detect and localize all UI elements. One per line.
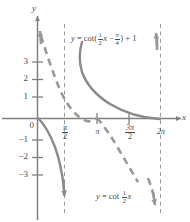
x-axis-label: x — [182, 113, 186, 122]
solid-curve-equation-label: y = cot(12x −π4) + 1 — [71, 32, 136, 46]
x-tick-3pi-over-2-denominator: 2 — [125, 133, 135, 141]
x-tick-pi-text: π — [95, 127, 99, 136]
curve-solid-left-branch-arrow — [63, 182, 64, 196]
dashed-eq-equals: = — [102, 191, 107, 201]
x-tick-label-2pi: 2π — [152, 128, 170, 136]
dashed-eq-variable: x — [128, 191, 132, 201]
dashed-eq-lhs: y — [96, 191, 100, 201]
dashed-eq-coefficient: 12 — [122, 190, 127, 204]
cotangent-graph-figure: y x 0 3 2 1 −1 −2 −3 π 2 π 3π 2 2π y = c… — [0, 0, 190, 222]
curve-dashed-branch-2-arrow-top — [156, 33, 157, 46]
y-tick-label-1: 1 — [14, 92, 28, 101]
y-tick-label-2: 2 — [14, 74, 28, 83]
x-tick-label-pi-over-2: π 2 — [58, 124, 72, 141]
solid-eq-lhs: y — [71, 33, 75, 43]
y-axis-label: y — [32, 4, 36, 13]
y-tick-label-neg1: −1 — [10, 135, 28, 144]
solid-eq-phase-shift: π4 — [115, 32, 120, 46]
dashed-curve-equation-label: y = cot 12x — [96, 190, 131, 204]
solid-eq-minus: − — [109, 33, 114, 43]
y-tick-label-3: 3 — [14, 57, 28, 66]
curve-dashed-branch-1-arrow — [40, 31, 41, 44]
x-tick-2pi-text: 2π — [157, 127, 165, 136]
y-tick-label-neg2: −2 — [10, 152, 28, 161]
solid-eq-function: cot( — [84, 33, 97, 43]
curve-dashed-branch-2-arrow-bottom — [153, 192, 155, 205]
solid-eq-equals: = — [77, 33, 82, 43]
dashed-eq-function: cot — [109, 191, 119, 201]
dashed-eq-coef-denominator: 2 — [122, 198, 127, 205]
y-tick-label-neg3: −3 — [10, 170, 28, 179]
origin-label: 0 — [24, 121, 34, 130]
x-tick-label-pi: π — [91, 128, 104, 136]
x-tick-label-3pi-over-2: 3π 2 — [121, 124, 139, 141]
solid-eq-close-paren: ) — [120, 33, 123, 43]
solid-eq-variable: x — [103, 33, 107, 43]
curve-dashed-branch-1 — [41, 36, 97, 121]
solid-eq-vertical-shift: + 1 — [125, 33, 136, 43]
x-tick-pi-over-2-denominator: 2 — [62, 133, 68, 141]
solid-eq-coef-denominator: 2 — [98, 40, 103, 47]
curve-solid-main-branch — [80, 42, 160, 119]
solid-eq-shift-denominator: 4 — [115, 40, 120, 47]
solid-eq-coefficient: 12 — [98, 32, 103, 46]
